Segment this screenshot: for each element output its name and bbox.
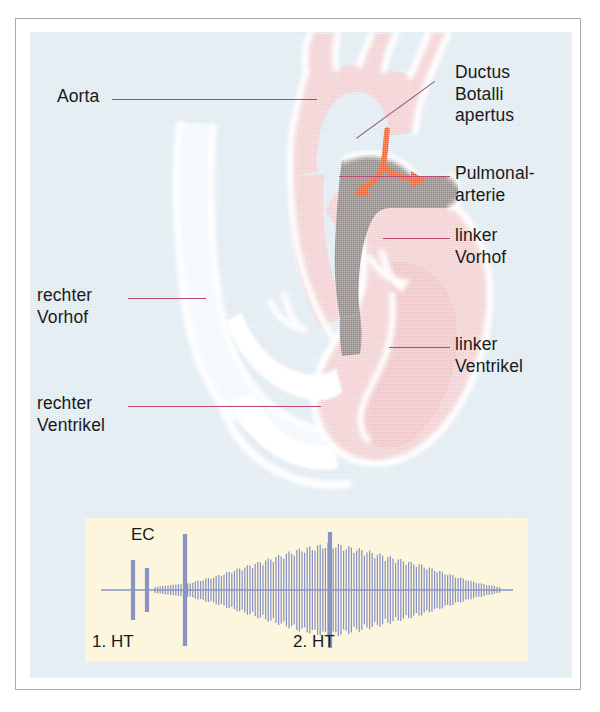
- shunt-region-lower-tail: [340, 314, 362, 356]
- shunt-arrow-stem: [383, 130, 387, 166]
- leader-aorta: [112, 99, 317, 100]
- leader-pulmonary-artery: [339, 176, 450, 177]
- label-pulmonary-artery: Pulmonal- arterie: [455, 163, 535, 206]
- leader-left-atrium: [383, 238, 450, 239]
- figure-root: Aorta rechter Vorhof rechter Ventrikel D…: [0, 0, 600, 712]
- label-ductus-botalli: Ductus Botalli apertus: [455, 62, 514, 127]
- leader-left-ventricle: [389, 347, 450, 348]
- label-right-ventricle: rechter Ventrikel: [37, 393, 105, 436]
- leader-right-ventricle: [128, 406, 321, 407]
- phono-marker-second-heart-sound: 2. HT: [293, 632, 335, 652]
- phono-marker-first-heart-sound: 1. HT: [92, 632, 134, 652]
- phono-marker-ec: EC: [131, 525, 155, 545]
- label-aorta: Aorta: [57, 86, 99, 108]
- label-right-atrium: rechter Vorhof: [37, 285, 92, 328]
- label-left-atrium: linker Vorhof: [455, 225, 506, 268]
- tricuspid-leaflets: [270, 294, 304, 330]
- label-left-ventricle: linker Ventrikel: [455, 334, 523, 377]
- leader-right-atrium: [128, 298, 206, 299]
